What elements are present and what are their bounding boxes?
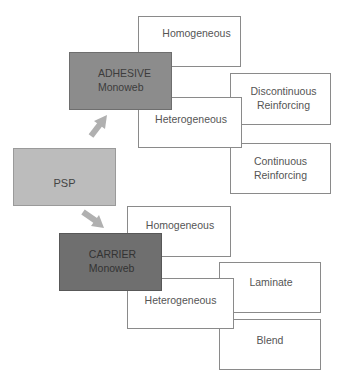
arrow-up-right-icon [91, 115, 107, 136]
arrows-layer [0, 0, 343, 382]
arrow-down-right-icon [83, 212, 104, 228]
